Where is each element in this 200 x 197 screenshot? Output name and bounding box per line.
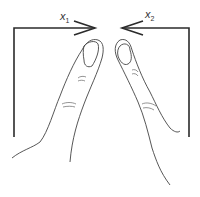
left-arrow-x1 <box>14 21 95 137</box>
right-bracket-line <box>122 28 189 137</box>
label-x1: x1 <box>59 10 70 24</box>
left-finger-crease-2 <box>62 103 76 108</box>
left-finger-crease-1 <box>78 76 86 81</box>
right-arrow-x2 <box>122 21 189 137</box>
left-finger-outline <box>12 39 103 162</box>
pinch-gesture-diagram: x1 x2 <box>0 0 200 197</box>
right-finger-outline <box>115 39 180 185</box>
left-finger <box>12 39 103 162</box>
label-x2: x2 <box>144 8 155 22</box>
right-finger-crease-2 <box>142 103 156 110</box>
right-fingernail <box>118 44 132 65</box>
right-finger-crease-1 <box>132 70 138 76</box>
right-finger <box>115 39 180 185</box>
left-bracket-line <box>14 28 95 137</box>
left-fingernail <box>83 42 98 67</box>
